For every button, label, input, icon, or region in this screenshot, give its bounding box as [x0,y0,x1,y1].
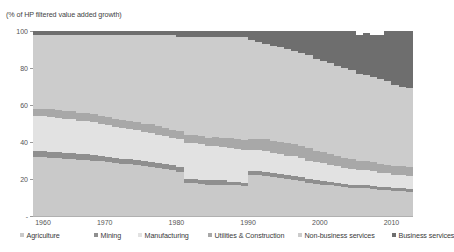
x-axis: 196019701980199020002010 [33,216,413,230]
legend-item-manufacturing[interactable]: Manufacturing [138,231,189,240]
plot-area [33,31,413,216]
chart-legend: AgricultureMiningManufacturingUtilities … [20,229,416,241]
stacked-area-svg [33,31,413,216]
x-tick-label: 1970 [97,219,113,226]
y-tick-label: 40 [20,139,28,146]
legend-item-business-services[interactable]: Business services [392,231,454,240]
legend-swatch-icon [94,233,98,237]
legend-swatch-icon [298,233,302,237]
legend-swatch-icon [138,233,142,237]
x-tick-label: 2010 [384,219,400,226]
legend-item-non-business-services[interactable]: Non-business services [298,231,375,240]
x-tick-label: 1980 [169,219,185,226]
chart-title: (% of HP filtered value added growth) [6,10,122,19]
y-tick-label: 80 [20,65,28,72]
legend-label: Business services [399,231,454,240]
y-tick-label: - [26,213,28,220]
legend-label: Non-business services [305,231,375,240]
x-tick-label: 1990 [240,219,256,226]
legend-item-agriculture[interactable]: Agriculture [20,231,60,240]
legend-swatch-icon [208,233,212,237]
y-tick-label: 20 [20,176,28,183]
y-axis: 10080604020- [0,31,33,216]
y-tick-label: 60 [20,102,28,109]
legend-swatch-icon [20,233,24,237]
legend-item-utilities-construction[interactable]: Utilities & Construction [208,231,284,240]
x-tick-label: 1960 [35,219,51,226]
legend-label: Utilities & Construction [215,231,285,240]
legend-swatch-icon [392,233,396,237]
legend-item-mining[interactable]: Mining [94,231,121,240]
legend-label: Mining [101,231,122,240]
y-tick-label: 100 [16,28,28,35]
legend-label: Agriculture [27,231,60,240]
legend-label: Manufacturing [145,231,189,240]
x-tick-label: 2000 [312,219,328,226]
